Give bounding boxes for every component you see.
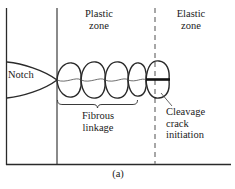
fibrous-linkage-brace [58, 100, 138, 108]
label-notch: Notch [8, 69, 48, 81]
fracture-mechanism-figure: Plastic zone Elastic zone Notch Fibrous … [0, 0, 235, 189]
label-cleavage-crack-initiation: Cleavage crack initiation [166, 106, 232, 141]
figure-caption: (a) [98, 168, 138, 180]
label-fibrous-linkage: Fibrous linkage [58, 110, 138, 133]
ligament-line [57, 79, 146, 81]
label-elastic-zone: Elastic zone [160, 8, 222, 31]
label-plastic-zone: Plastic zone [68, 8, 130, 31]
